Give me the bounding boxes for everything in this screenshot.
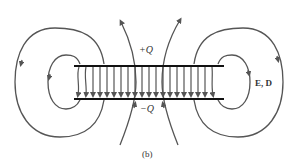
- bottom-plate-charge-label: −Q: [140, 104, 154, 114]
- figure-caption: (b): [142, 150, 153, 159]
- outer-field-lines: [120, 20, 180, 145]
- field-lines-svg: [0, 0, 298, 165]
- capacitor-field-diagram: +Q −Q E, D (b): [0, 0, 298, 165]
- field-label: E, D: [255, 79, 272, 88]
- left-fringe-loops: [15, 28, 104, 137]
- interior-field-arrows: [78, 67, 213, 95]
- top-plate-charge-label: +Q: [139, 45, 153, 55]
